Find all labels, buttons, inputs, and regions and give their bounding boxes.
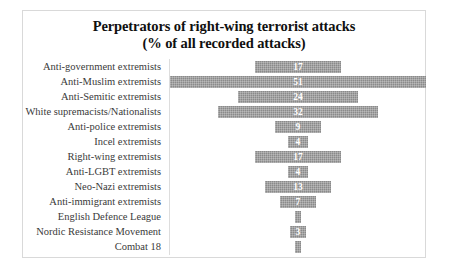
bar-track: 17 [170,149,425,164]
bar[interactable] [170,76,426,88]
category-label: White supremacists/Nationalists [23,104,166,119]
category-label: English Defence League [23,209,166,224]
bar-row: Anti-government extremists17 [23,59,425,74]
bar[interactable] [288,166,308,178]
category-label: Incel extremists [23,134,166,149]
bar-row: Anti-Muslim extremists51 [23,74,425,89]
category-label: Anti-Semitic extremists [23,89,166,104]
bar[interactable] [218,106,379,118]
bar-row: Right-wing extremists17 [23,149,425,164]
category-label: Neo-Nazi extremists [23,179,166,194]
bar[interactable] [288,136,308,148]
bar-track: 24 [170,89,425,104]
bar[interactable] [280,196,315,208]
bar-row: Nordic Resistance Movement3 [23,224,425,239]
bar-track: 13 [170,179,425,194]
bar-track: 17 [170,59,425,74]
category-label: Anti-government extremists [23,59,166,74]
bar-track: 4 [170,164,425,179]
bar-rows: Anti-government extremists17Anti-Muslim … [23,59,425,254]
bar[interactable] [295,241,300,253]
bar-track: 3 [170,224,425,239]
bar-track [170,209,425,224]
bar-row: Anti-Semitic extremists24 [23,89,425,104]
bar-row: Anti-police extremists9 [23,119,425,134]
category-label: Anti-immigrant extremists [23,194,166,209]
bar-track: 4 [170,134,425,149]
bar[interactable] [255,151,340,163]
chart-title-line-1: Perpetrators of right-wing terrorist att… [23,18,425,35]
category-label: Nordic Resistance Movement [23,224,166,239]
category-label: Combat 18 [23,239,166,254]
category-label: Anti-Muslim extremists [23,74,166,89]
category-label: Anti-LGBT extremists [23,164,166,179]
category-label: Right-wing extremists [23,149,166,164]
bar-track: 51 [170,74,425,89]
bar[interactable] [238,91,358,103]
bar-row: White supremacists/Nationalists32 [23,104,425,119]
bar-row: Incel extremists4 [23,134,425,149]
bar-track: 32 [170,104,425,119]
bar-row: Anti-immigrant extremists7 [23,194,425,209]
bar-row: Combat 18 [23,239,425,254]
bar-row: English Defence League [23,209,425,224]
bar-track: 9 [170,119,425,134]
chart-title: Perpetrators of right-wing terrorist att… [23,18,425,52]
chart-container: Perpetrators of right-wing terrorist att… [22,10,426,258]
bar-track: 7 [170,194,425,209]
bar-row: Neo-Nazi extremists13 [23,179,425,194]
bar-track [170,239,425,254]
bar[interactable] [290,226,305,238]
category-label: Anti-police extremists [23,119,166,134]
bar[interactable] [265,181,330,193]
bar[interactable] [275,121,320,133]
plot-area: Anti-government extremists17Anti-Muslim … [23,59,425,255]
bar[interactable] [255,61,340,73]
bar[interactable] [295,211,300,223]
chart-title-line-2: (% of all recorded attacks) [23,35,425,52]
bar-row: Anti-LGBT extremists4 [23,164,425,179]
